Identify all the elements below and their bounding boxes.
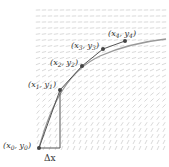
point-1 xyxy=(58,88,62,92)
label-point-0: (x0, y0) xyxy=(3,141,31,151)
point-4 xyxy=(123,39,127,43)
label-point-4: (x4, y4) xyxy=(108,29,136,39)
delta-x-label: Δx xyxy=(44,153,56,163)
euler-method-diagram: (x0, y0) (x1, y1) (x2, y2) (x3, y3) (x4,… xyxy=(0,0,169,167)
point-0 xyxy=(37,146,41,150)
euler-points xyxy=(37,39,127,150)
point-2 xyxy=(80,64,84,68)
label-point-3: (x3, y3) xyxy=(71,41,99,51)
point-labels: (x0, y0) (x1, y1) (x2, y2) (x3, y3) (x4,… xyxy=(3,29,136,151)
label-point-1: (x1, y1) xyxy=(28,80,56,90)
label-point-2: (x2, y2) xyxy=(50,58,78,68)
point-3 xyxy=(101,47,105,51)
